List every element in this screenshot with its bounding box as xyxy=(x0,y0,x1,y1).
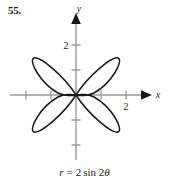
equation-coefficient: 2 xyxy=(76,166,82,178)
equation-equals: = xyxy=(67,166,73,178)
rose-petal-lower-left xyxy=(32,94,76,132)
axes-group xyxy=(10,13,152,160)
y-axis-arrowhead-icon xyxy=(71,13,81,24)
equation-angle: θ xyxy=(104,166,109,178)
rose-petal-upper-left xyxy=(32,58,76,96)
x-axis-label: x xyxy=(155,89,161,100)
x-tick-label-2: 2 xyxy=(124,101,129,112)
rose-petal-lower-right xyxy=(76,94,120,132)
x-axis-arrowhead-icon xyxy=(141,90,152,100)
equation-caption: r=2sin 2θ xyxy=(0,166,169,178)
y-tick-label-2: 2 xyxy=(64,40,69,51)
equation-variable: r xyxy=(59,166,63,178)
rose-petal-upper-right xyxy=(76,58,120,96)
polar-rose-plot: x y 2 2 xyxy=(0,0,169,188)
y-axis-label: y xyxy=(76,3,82,14)
equation-function: sin xyxy=(83,166,96,178)
figure-container: 55. xyxy=(0,0,169,188)
